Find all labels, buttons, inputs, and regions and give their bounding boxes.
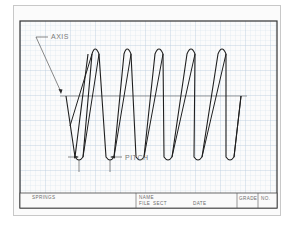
axis-label: AXIS	[51, 33, 69, 40]
title-file-label: FILE	[139, 201, 150, 206]
title-date-label: DATE	[193, 201, 207, 206]
title-block: SPRINGS NAME FILE SECT DATE GRADE NO.	[20, 193, 277, 208]
title-grade-label: GRADE	[239, 196, 257, 201]
spring-drawing: SPRINGS NAME FILE SECT DATE GRADE NO. AX…	[0, 0, 294, 229]
title-no-label: NO.	[261, 196, 270, 201]
title-subject: SPRINGS	[32, 195, 55, 200]
title-sect-label: SECT	[153, 201, 167, 206]
pitch-label: PITCH	[125, 154, 149, 161]
title-name-label: NAME	[139, 195, 154, 200]
